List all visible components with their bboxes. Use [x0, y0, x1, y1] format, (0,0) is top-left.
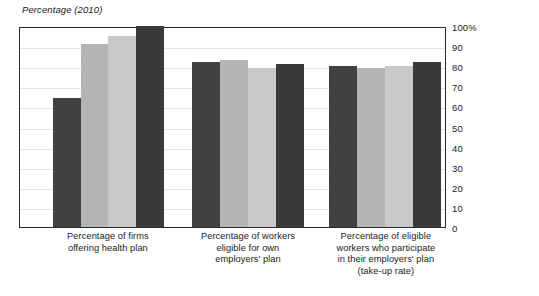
bars-layer: [20, 28, 445, 227]
y-axis-tick-label: 30: [452, 162, 463, 173]
x-axis-category-label-line: eligible for own: [178, 243, 319, 255]
bar: [53, 98, 81, 227]
x-axis-category-label-line: Percentage of firms: [44, 231, 172, 243]
x-axis-category-label: Percentage of workerseligible for ownemp…: [178, 231, 319, 266]
y-axis-tick-label: 40: [452, 142, 463, 153]
chart-title: Percentage (2010): [22, 4, 102, 15]
y-axis-tick-label: 70: [452, 82, 463, 93]
x-axis-category-label-line: employers' plan: [178, 254, 319, 266]
y-axis-tick-label: 10: [452, 202, 463, 213]
bar: [413, 62, 441, 227]
x-axis-category-label-line: workers who participate: [305, 243, 467, 255]
x-axis-category-labels: Percentage of firmsoffering health planP…: [19, 231, 446, 293]
bar: [136, 26, 164, 227]
bar: [108, 36, 136, 227]
y-axis-tick-label: 60: [452, 102, 463, 113]
y-axis-tick-label: 90: [452, 42, 463, 53]
x-axis-category-label: Percentage of firmsoffering health plan: [44, 231, 172, 254]
y-axis-tick-label: 50: [452, 122, 463, 133]
x-axis-category-label-line: in their employers' plan: [305, 254, 467, 266]
bar: [192, 62, 220, 227]
bar: [248, 68, 276, 227]
bar: [276, 64, 304, 227]
y-axis-tick-labels: 100%9080706050403020100: [452, 27, 498, 228]
bar: [329, 66, 357, 227]
bar: [385, 66, 413, 227]
plot-area: [19, 27, 446, 228]
x-axis-category-label-line: Percentage of workers: [178, 231, 319, 243]
bar: [220, 60, 248, 227]
x-axis-category-label: Percentage of eligibleworkers who partic…: [305, 231, 467, 277]
x-axis-category-label-line: offering health plan: [44, 243, 172, 255]
bar: [357, 68, 385, 227]
x-axis-category-label-line: Percentage of eligible: [305, 231, 467, 243]
y-axis-tick-label: 20: [452, 182, 463, 193]
x-axis-category-label-line: (take-up rate): [305, 266, 467, 278]
bar: [81, 44, 109, 227]
y-axis-tick-label: 100%: [452, 22, 477, 33]
y-axis-tick-label: 80: [452, 62, 463, 73]
